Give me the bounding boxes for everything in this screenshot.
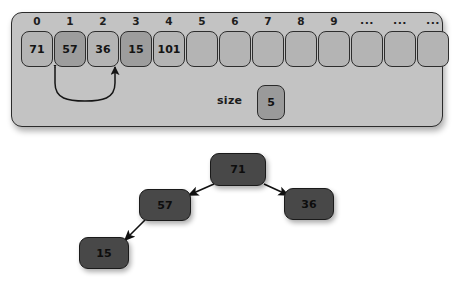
array-index-label-11: ...	[384, 14, 416, 27]
array-index-label-2: 2	[87, 15, 119, 27]
size-value-box[interactable]: 5	[257, 85, 285, 120]
array-index-label-0: 0	[21, 15, 53, 27]
array-index-label-6: 6	[219, 15, 251, 27]
tree-node-left-left[interactable]: 15	[79, 237, 129, 269]
array-cell-4[interactable]: 101	[153, 31, 185, 67]
array-index-label-12: ...	[417, 14, 449, 27]
array-index-label-5: 5	[186, 15, 218, 27]
size-label: size	[217, 94, 242, 107]
array-cell-1[interactable]: 57	[54, 31, 86, 67]
array-cell-5[interactable]	[186, 31, 218, 67]
tree-node-left[interactable]: 57	[139, 189, 191, 221]
array-cell-3[interactable]: 15	[120, 31, 152, 67]
swap-arrow-icon	[52, 65, 162, 113]
array-index-label-7: 7	[252, 15, 284, 27]
array-cell-10[interactable]	[351, 31, 383, 67]
array-index-label-3: 3	[120, 15, 152, 27]
edge-root-to-left	[189, 184, 214, 195]
array-visualization-panel: 0 1 2 3 4 5 6 7 8 9 ... ... ... 71 57 36…	[11, 12, 443, 127]
array-cell-11[interactable]	[384, 31, 416, 67]
array-cell-8[interactable]	[285, 31, 317, 67]
edge-left-to-left-left	[125, 220, 145, 240]
binary-tree-diagram: 71 57 36 15	[0, 140, 456, 292]
array-index-label-9: 9	[318, 15, 350, 27]
array-cell-0[interactable]: 71	[21, 31, 53, 67]
array-index-label-4: 4	[153, 15, 185, 27]
array-cell-2[interactable]: 36	[87, 31, 119, 67]
array-cell-12[interactable]	[417, 31, 449, 67]
array-index-label-1: 1	[54, 15, 86, 27]
array-cell-9[interactable]	[318, 31, 350, 67]
tree-node-right[interactable]: 36	[284, 188, 334, 220]
array-index-label-10: ...	[351, 14, 383, 27]
array-cell-6[interactable]	[219, 31, 251, 67]
array-cell-7[interactable]	[252, 31, 284, 67]
tree-node-root[interactable]: 71	[210, 153, 266, 186]
array-index-label-8: 8	[285, 15, 317, 27]
